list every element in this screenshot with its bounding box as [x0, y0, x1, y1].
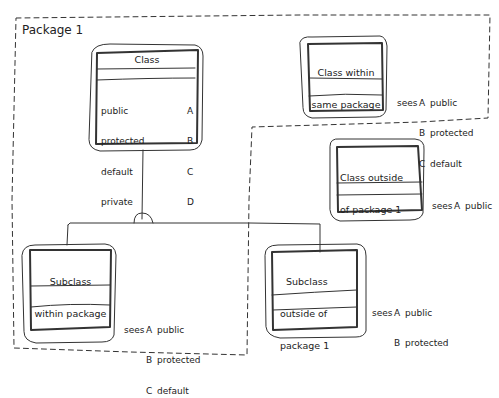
letter-b: B — [187, 136, 194, 146]
same-package-sees: seesApublic Bprotected Cdefault — [397, 78, 474, 179]
subclass-within-sees: seesApublic Bprotected Cdefault — [124, 305, 201, 398]
subclass-within-title: Subclass within package — [31, 256, 110, 330]
class-member-letters: A B C D — [187, 86, 194, 217]
subclass-outside-sees: seesApublic Bprotected — [372, 288, 449, 359]
outside-package-title: Class outside of package 1 — [340, 152, 403, 226]
class-title: Class — [98, 55, 196, 66]
member-protected: protected — [101, 136, 145, 146]
letter-c: C — [187, 167, 194, 177]
same-package-title: Class within same package — [310, 47, 382, 121]
letter-d: D — [187, 197, 194, 207]
inheritance-branch — [68, 223, 320, 252]
subclass-outside-title: Subclass outside of package 1 — [280, 256, 329, 362]
member-private: private — [101, 197, 145, 207]
outside-package-sees: seesApublic — [432, 181, 492, 221]
member-default: default — [101, 167, 145, 177]
package-title: Package 1 — [22, 24, 83, 37]
class-members: public protected default private — [101, 86, 145, 217]
letter-a: A — [187, 106, 194, 116]
member-public: public — [101, 106, 145, 116]
